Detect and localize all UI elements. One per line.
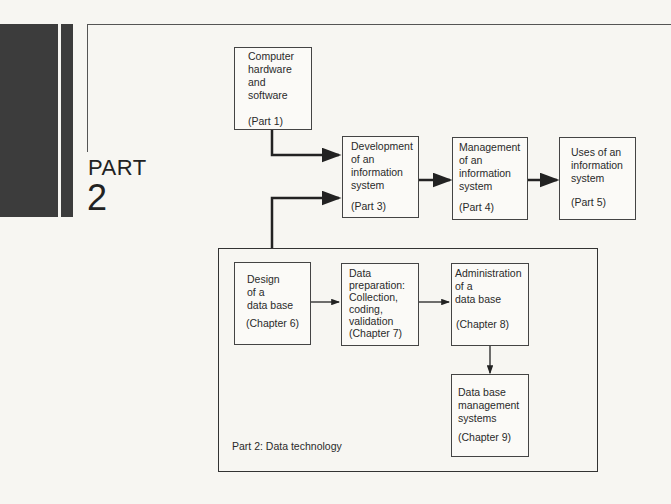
- box-design-ref: (Chapter 6): [246, 317, 299, 330]
- box-administration-title: Administration of a data base: [455, 267, 528, 306]
- box-management: Management of an information system (Par…: [452, 137, 528, 220]
- box-uses-title: Uses of an information system: [571, 146, 635, 185]
- box-management-title: Management of an information system: [459, 141, 527, 193]
- box-preparation: Data preparation: Collection, coding, va…: [341, 263, 419, 346]
- box-uses: Uses of an information system (Part 5): [559, 137, 636, 220]
- box-dbms-title: Data base management systems: [458, 386, 528, 425]
- box-preparation-ref: (Chapter 7): [349, 327, 402, 340]
- box-development: Development of an information system (Pa…: [342, 136, 419, 218]
- group-label: Part 2: Data technology: [232, 440, 342, 452]
- box-hardware: Computer hardware and software (Part 1): [234, 47, 312, 130]
- box-administration-ref: (Chapter 8): [456, 318, 509, 331]
- box-design: Design of a data base (Chapter 6): [234, 262, 311, 345]
- box-design-title: Design of a data base: [247, 273, 310, 312]
- box-administration: Administration of a data base (Chapter 8…: [451, 263, 529, 346]
- box-hardware-title: Computer hardware and software: [248, 50, 311, 102]
- box-hardware-ref: (Part 1): [248, 115, 283, 128]
- box-development-ref: (Part 3): [351, 200, 386, 213]
- box-dbms: Data base management systems (Chapter 9): [451, 374, 529, 457]
- box-dbms-ref: (Chapter 9): [458, 431, 511, 444]
- box-preparation-title: Data preparation: Collection, coding, va…: [349, 267, 418, 327]
- box-uses-ref: (Part 5): [571, 196, 606, 209]
- box-management-ref: (Part 4): [459, 201, 494, 214]
- box-development-title: Development of an information system: [351, 140, 418, 192]
